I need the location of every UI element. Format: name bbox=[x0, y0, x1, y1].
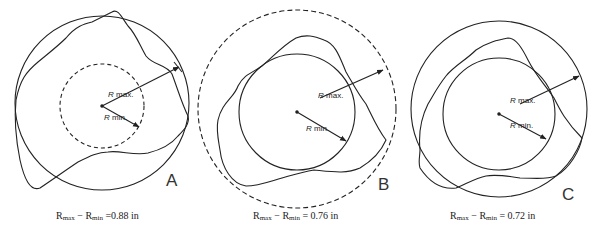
caption-a: Rmax − Rmin =0.88 in bbox=[56, 210, 139, 222]
svg-text:R min.: R min. bbox=[510, 121, 533, 130]
caption-b: Rmax − Rmin = 0.76 in bbox=[253, 210, 338, 222]
panel-letter-b: B bbox=[378, 175, 389, 194]
panel-letter-a: A bbox=[166, 171, 178, 190]
outer-circle-b bbox=[198, 10, 396, 208]
panel-b-labels: R max. R min. B bbox=[306, 91, 389, 194]
outer-circle-c bbox=[411, 21, 587, 197]
r-max-arrow-a bbox=[102, 67, 179, 106]
svg-text:R min.: R min. bbox=[104, 113, 127, 122]
svg-text:R min.: R min. bbox=[306, 124, 329, 133]
panel-letter-c: C bbox=[562, 185, 574, 204]
outer-circle-a bbox=[15, 16, 189, 190]
profile-trace-a bbox=[15, 11, 188, 189]
svg-text:R max.: R max. bbox=[108, 90, 133, 99]
panel-b bbox=[198, 10, 396, 208]
svg-text:R max.: R max. bbox=[318, 91, 343, 100]
profile-trace-b bbox=[217, 36, 386, 186]
caption-c: Rmax − Rmin = 0.72 in bbox=[450, 210, 535, 222]
roundness-diagram: R max. R min. A R max. R min. B R max. R… bbox=[0, 0, 599, 245]
svg-text:R max.: R max. bbox=[510, 96, 535, 105]
panel-c bbox=[411, 21, 587, 197]
panel-a bbox=[15, 11, 189, 190]
panel-a-labels: R max. R min. A bbox=[104, 90, 178, 190]
